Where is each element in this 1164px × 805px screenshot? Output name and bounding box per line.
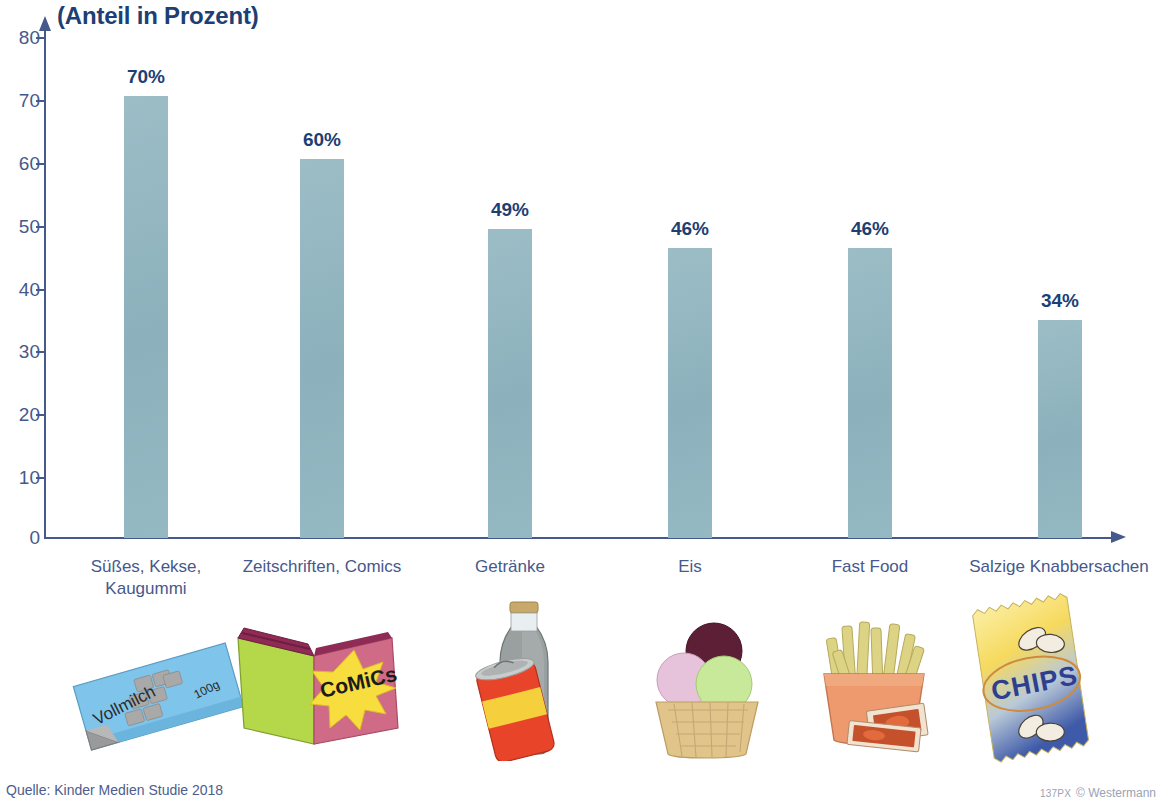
credit-line: 137PX© Westermann (1040, 786, 1156, 800)
publisher-label: © Westermann (1076, 786, 1156, 800)
bar-value-label: 34% (1010, 290, 1110, 312)
y-tick-label-60: 60 (6, 154, 40, 173)
drinks-bottle-can-illustration (462, 596, 582, 761)
x-axis-line (44, 537, 1113, 539)
bar-value-label: 60% (272, 129, 372, 151)
bar-salzige-knabbersachen[interactable] (1038, 320, 1082, 538)
category-label-line: Salzige Knabbersachen (955, 556, 1163, 578)
comics-magazine-illustration: CoMiCs (226, 616, 406, 756)
y-tick-label-10: 10 (6, 468, 40, 487)
bar-value-label: 46% (820, 218, 920, 240)
category-label-line: Getränke (430, 556, 590, 578)
x-axis-arrow-icon (1111, 531, 1126, 543)
y-tick-label-0: 0 (6, 528, 40, 547)
y-tick-label-40: 40 (6, 280, 40, 299)
page-title: (Anteil in Prozent) (57, 2, 259, 30)
page-code: 137PX (1040, 788, 1071, 799)
category-label-line: Kaugummi (66, 578, 226, 600)
y-axis-line (44, 30, 46, 539)
bar-value-label: 49% (460, 199, 560, 221)
source-note: Quelle: Kinder Medien Studie 2018 (6, 782, 223, 798)
bar-suesses-kekse-kaugummi[interactable] (124, 96, 168, 538)
y-tick-label-30: 30 (6, 342, 40, 361)
y-tick-label-70: 70 (6, 91, 40, 110)
y-axis-arrow-icon (39, 16, 51, 31)
y-tick-label-80: 80 (6, 28, 40, 47)
category-label-getraenke: Getränke (430, 556, 590, 578)
category-label-salzige-knabbersachen: Salzige Knabbersachen (955, 556, 1163, 578)
category-label-line: Eis (610, 556, 770, 578)
bar-value-label: 46% (640, 218, 740, 240)
bar-getraenke[interactable] (488, 229, 532, 538)
y-tick-label-20: 20 (6, 405, 40, 424)
y-tick-label-50: 50 (6, 217, 40, 236)
bar-eis[interactable] (668, 248, 712, 538)
ice-cream-illustration (648, 618, 778, 760)
chips-bag-illustration: CHIPS (958, 592, 1103, 767)
category-label-eis: Eis (610, 556, 770, 578)
chart-page: (Anteil in Prozent) 80 70 60 50 40 30 20… (0, 0, 1164, 805)
bar-value-label: 70% (96, 66, 196, 88)
category-label-line: Süßes, Kekse, (66, 556, 226, 578)
category-label-fast-food: Fast Food (790, 556, 950, 578)
french-fries-illustration (812, 612, 952, 762)
category-label-suesses-kekse-kaugummi: Süßes, Kekse, Kaugummi (66, 556, 226, 600)
bar-zeitschriften-comics[interactable] (300, 159, 344, 538)
category-label-line: Fast Food (790, 556, 950, 578)
chocolate-bar-illustration: Vollmilch 100g (62, 632, 252, 767)
bar-fast-food[interactable] (848, 248, 892, 538)
category-label-zeitschriften-comics: Zeitschriften, Comics (232, 556, 412, 578)
category-label-line: Zeitschriften, Comics (232, 556, 412, 578)
